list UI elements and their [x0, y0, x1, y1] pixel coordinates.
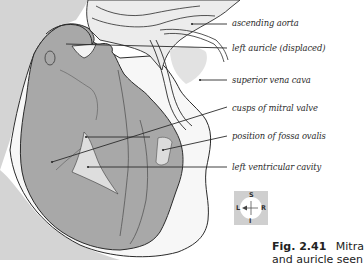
caption-text: Mitra	[336, 240, 364, 253]
caption-number: Fig. 2.41	[272, 240, 326, 253]
compass-superior: S	[249, 192, 254, 199]
label-fossa-ovalis: position of fossa ovalis	[232, 131, 326, 141]
compass-inferior: I	[249, 218, 251, 225]
label-superior-vena-cava: superior vena cava	[232, 75, 311, 85]
caption-line-2: and auricle seen	[272, 253, 363, 266]
label-cusps-mitral-valve: cusps of mitral valve	[232, 103, 318, 113]
compass-left: L	[236, 205, 240, 212]
label-ascending-aorta: ascending aorta	[232, 18, 299, 28]
orientation-compass: S I L R	[234, 191, 268, 225]
label-left-auricle: left auricle (displaced)	[232, 43, 325, 53]
figure-caption: Fig. 2.41 Mitra and auricle seen	[272, 240, 364, 253]
compass-right: R	[261, 205, 266, 212]
label-left-ventricular-cavity: left ventricular cavity	[232, 162, 321, 172]
